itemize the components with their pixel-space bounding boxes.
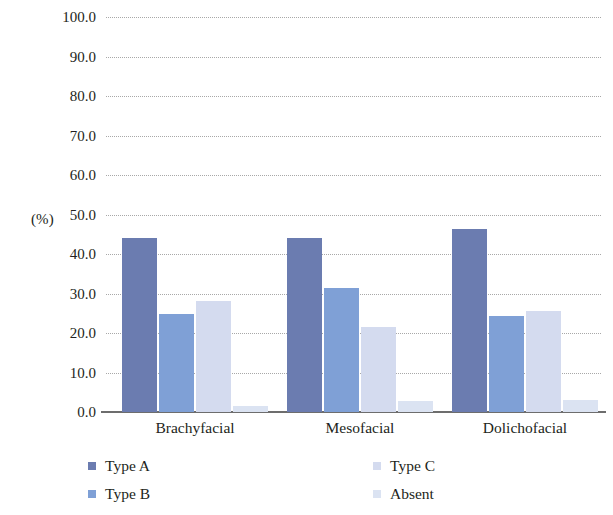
bar-group [122, 17, 268, 412]
bar [489, 316, 524, 412]
y-axis-tick-label: 60.0 [38, 167, 96, 184]
y-axis-tick-labels: 100.090.080.070.060.050.040.030.020.010.… [44, 0, 102, 430]
legend-item-label: Type A [105, 458, 150, 474]
legend-item-label: Type B [105, 486, 150, 502]
x-axis-category-label: Mesofacial [326, 419, 395, 437]
legend-swatch-icon [373, 490, 381, 498]
legend-item[interactable]: Type B [88, 486, 150, 502]
legend-swatch-icon [88, 490, 96, 498]
legend-item[interactable]: Type C [373, 458, 435, 474]
y-axis-tick-label: 80.0 [38, 88, 96, 105]
y-axis-tick-label: 10.0 [38, 364, 96, 381]
legend-swatch-icon [88, 462, 96, 470]
x-axis-category-label: Brachyfacial [155, 419, 234, 437]
y-axis-tick-label: 20.0 [38, 325, 96, 342]
bar [526, 311, 561, 412]
chart-legend: Type AType BType CAbsent [88, 458, 558, 512]
legend-item[interactable]: Absent [373, 486, 434, 502]
bar [196, 301, 231, 412]
y-axis-tick-label: 40.0 [38, 246, 96, 263]
x-axis-category-label: Dolichofacial [483, 419, 567, 437]
bar-group [287, 17, 433, 412]
y-axis-tick-label: 100.0 [38, 9, 96, 26]
bar [122, 238, 157, 412]
y-axis-tick-label: 50.0 [38, 206, 96, 223]
bar [324, 288, 359, 412]
legend-swatch-icon [373, 462, 381, 470]
bar [452, 229, 487, 412]
legend-item-label: Absent [390, 486, 434, 502]
legend-item-label: Type C [390, 458, 435, 474]
y-axis-tick-label: 90.0 [38, 48, 96, 65]
bar [233, 406, 268, 412]
y-axis-tick-label: 0.0 [38, 404, 96, 421]
x-axis-category-labels: BrachyfacialMesofacialDolichofacial [106, 419, 601, 445]
y-axis-tick-label: 70.0 [38, 127, 96, 144]
grouped-bar-chart: (%) 100.090.080.070.060.050.040.030.020.… [0, 0, 613, 515]
bar [287, 238, 322, 412]
bars-layer [106, 17, 601, 412]
bar [361, 327, 396, 412]
legend-item[interactable]: Type A [88, 458, 150, 474]
bar [398, 401, 433, 412]
bar [563, 400, 598, 412]
y-axis-tick-label: 30.0 [38, 285, 96, 302]
bar [159, 314, 194, 412]
bar-group [452, 17, 598, 412]
